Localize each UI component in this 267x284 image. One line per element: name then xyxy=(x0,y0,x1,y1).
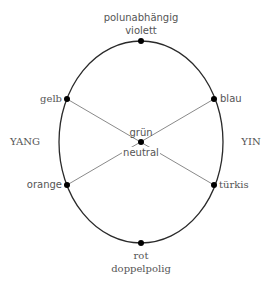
label-center-bottom: neutral xyxy=(123,147,159,158)
label-tuerkis: türkis xyxy=(219,179,249,190)
dot-center xyxy=(138,139,144,145)
dot-bottom xyxy=(138,240,144,246)
label-bottom-line2: doppelpolig xyxy=(111,263,171,274)
label-orange: orange xyxy=(27,179,62,190)
label-yin: YIN xyxy=(240,136,261,147)
label-top-line1: polunabhängig xyxy=(104,12,179,23)
label-gelb: gelb xyxy=(40,93,62,104)
label-top-line2: violett xyxy=(125,25,157,36)
dot-blau xyxy=(211,96,217,102)
label-blau: blau xyxy=(220,93,242,104)
label-bottom-line1: rot xyxy=(134,250,149,261)
dot-orange xyxy=(64,182,70,188)
dot-tuerkis xyxy=(211,182,217,188)
dot-gelb xyxy=(64,96,70,102)
label-yang: YANG xyxy=(9,136,40,147)
dot-top xyxy=(138,38,144,44)
color-polarity-diagram: polunabhängig violett rot doppelpolig ge… xyxy=(0,0,267,284)
label-center-top: grün xyxy=(129,127,152,138)
